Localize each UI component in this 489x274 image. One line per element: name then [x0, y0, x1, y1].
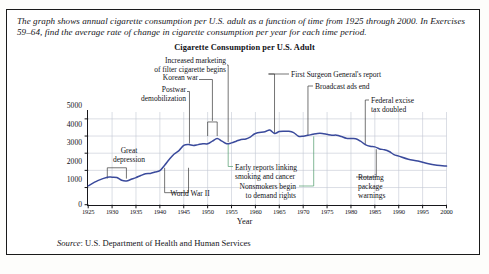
annotation-broadcast-ads-end: Broadcast ads end: [315, 82, 370, 91]
annotation-line: depression: [104, 155, 154, 164]
y-axis-line: [87, 110, 88, 206]
annotation-postwar-demobilization: Postwar demobilization: [108, 85, 186, 103]
y-tick-label: 5000: [2, 101, 82, 110]
annotation-line: Nonsmokers begin: [222, 182, 296, 191]
annotation-early-reports-smoking-cancer: Early reports linking smoking and cancer: [235, 163, 297, 181]
y-tick-label: 3000: [2, 138, 82, 147]
chart-title: Cigarette Consumption per U.S. Adult: [0, 43, 489, 52]
annotation-nonsmokers-demand-rights: Nonsmokers begin to demand rights: [222, 182, 296, 200]
annotation-line: Korean war: [120, 73, 198, 82]
y-tick-label: 0: [2, 200, 82, 209]
annotation-line: tax doubled: [371, 105, 414, 114]
annotation-line: Postwar: [108, 85, 186, 94]
annotation-line: Great: [104, 146, 154, 155]
x-axis-line: [87, 205, 447, 206]
annotation-line: smoking and cancer: [235, 172, 297, 181]
annotation-line: World War II: [155, 189, 225, 198]
annotation-line: of filter cigarette begins: [110, 65, 226, 74]
annotation-line: Increased marketing: [110, 56, 226, 65]
annotation-korean-war: Korean war: [120, 73, 198, 82]
annotation-world-war-ii: World War II: [155, 189, 225, 198]
annotation-federal-excise-tax-doubled: Federal excise tax doubled: [371, 96, 414, 114]
annotation-line: warnings: [358, 191, 386, 200]
annotation-rotating-package-warnings: Rotating package warnings: [358, 173, 386, 200]
y-axis-labels: 5000 4000 3000 2000 1000 0: [0, 100, 82, 215]
exercise-intro-text: The graph shows annual cigarette consump…: [17, 16, 469, 39]
x-axis-title: Year: [0, 217, 489, 226]
annotation-line: Federal excise: [371, 96, 414, 105]
annotation-line: Early reports linking: [235, 163, 297, 172]
annotation-great-depression: Great depression: [104, 146, 154, 164]
x-tick-label: 2000: [432, 208, 462, 215]
annotation-increased-marketing-filter: Increased marketing of filter cigarette …: [110, 56, 226, 74]
annotation-line: package: [358, 182, 386, 191]
annotation-line: demobilization: [108, 94, 186, 103]
annotation-first-surgeon-general-report: First Surgeon General's report: [291, 70, 381, 79]
source-text: : U.S. Department of Health and Human Se…: [81, 238, 251, 248]
y-tick-label: 4000: [2, 120, 82, 129]
annotation-line: Rotating: [358, 173, 386, 182]
y-tick-label: 2000: [2, 157, 82, 166]
annotation-line: Broadcast ads end: [315, 82, 370, 91]
figure-page: The graph shows annual cigarette consump…: [0, 0, 489, 274]
source-note: Source: U.S. Department of Health and Hu…: [57, 238, 251, 248]
source-label: Source: [57, 238, 81, 248]
annotation-line: First Surgeon General's report: [291, 70, 381, 79]
annotation-line: to demand rights: [222, 191, 296, 200]
y-tick-label: 1000: [2, 175, 82, 184]
